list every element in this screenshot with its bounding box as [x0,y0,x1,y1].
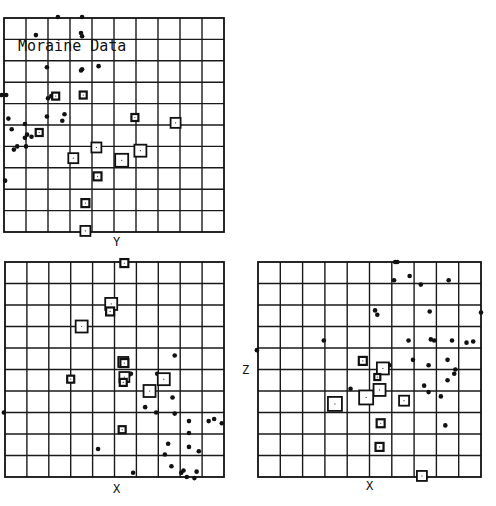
square-center-mark [70,379,71,380]
data-point-dot [60,118,65,123]
data-point-dot [80,15,85,20]
square-center-mark [124,262,125,263]
square-center-mark [96,147,97,148]
panel-0-axis-label: Y [113,235,121,249]
moraine-scatter-canvas: Moraine Data Y X X Z [0,0,496,506]
data-point-dot [9,127,14,132]
panel-1-axis-label: X [113,482,121,496]
square-center-mark [140,150,141,151]
data-point-dot [79,68,84,73]
data-point-dot [143,405,148,410]
data-point-dot [184,475,189,480]
data-point-dot [23,122,28,127]
square-center-mark [111,303,112,304]
data-point-dot [422,383,427,388]
data-point-dot [179,470,184,475]
data-point-dot [479,310,484,315]
square-center-mark [379,446,380,447]
data-point-dot [187,419,192,424]
data-point-dot [439,394,444,399]
data-point-dot [96,447,101,452]
square-center-mark [123,382,124,383]
square-center-mark [163,379,164,380]
data-point-dot [452,372,457,377]
data-point-dot [62,112,67,117]
data-point-dot [255,348,260,353]
square-center-mark [134,117,135,118]
square-center-mark [122,429,123,430]
data-point-dot [45,114,50,119]
square-center-mark [421,475,422,476]
data-point-dot [446,278,451,283]
data-point-dot [445,378,450,383]
square-center-mark [380,423,381,424]
data-point-dot [432,338,437,343]
data-point-dot [464,340,469,345]
square-center-mark [110,311,111,312]
data-point-dot [426,390,431,395]
data-point-dot [3,178,8,183]
data-point-dot [443,423,448,428]
data-point-dot [23,136,28,141]
square-center-mark [362,360,363,361]
chart-title: Moraine Data [18,37,126,55]
data-point-dot [187,445,192,450]
data-point-dot [471,339,476,344]
square-center-mark [39,132,40,133]
square-center-mark [85,230,86,231]
data-point-dot [15,144,20,149]
square-center-mark [124,376,125,377]
data-point-dot [395,260,400,265]
panel-2-side-label: Z [242,363,249,377]
data-point-dot [12,147,17,152]
panel-2-axis-label: X [366,479,374,493]
data-point-dot [453,367,458,372]
data-point-dot [24,144,29,149]
data-point-dot [411,358,416,363]
square-center-mark [73,158,74,159]
square-center-mark [175,122,176,123]
data-point-dot [172,353,177,358]
data-point-dot [6,116,11,121]
scatter-panel-x-lower-left [2,259,225,480]
data-point-dot [192,476,197,481]
square-center-mark [382,368,383,369]
data-point-dot [373,308,378,313]
grid-lines [258,262,481,477]
data-point-dot [131,470,136,475]
data-point-dot [4,93,9,98]
data-point-dot [427,309,432,314]
data-point-dot [96,64,101,69]
square-center-mark [121,160,122,161]
square-center-mark [403,400,404,401]
square-center-mark [149,390,150,391]
square-center-mark [377,376,378,377]
data-point-dot [321,338,326,343]
square-center-mark [366,397,367,398]
square-center-mark [55,96,56,97]
data-point-dot [45,65,50,70]
data-point-dot [406,338,411,343]
data-point-dot [407,274,412,279]
data-point-dot [375,312,380,317]
data-point-dot [392,278,397,283]
data-point-dot [154,410,159,415]
data-point-dot [445,358,450,363]
data-point-dot [194,469,199,474]
data-point-dot [170,395,175,400]
square-center-mark [124,362,125,363]
data-point-dot [2,410,7,415]
data-point-dot [348,387,353,392]
data-point-dot [220,421,225,426]
data-point-dot [206,419,211,424]
data-point-dot [166,441,171,446]
square-center-mark [97,176,98,177]
data-point-dot [197,449,202,454]
data-point-dot [187,431,192,436]
data-point-dot [172,411,177,416]
data-point-dot [29,134,34,139]
data-point-dot [163,452,168,457]
square-center-mark [83,94,84,95]
data-point-dot [56,15,61,20]
grid-lines [5,262,224,477]
